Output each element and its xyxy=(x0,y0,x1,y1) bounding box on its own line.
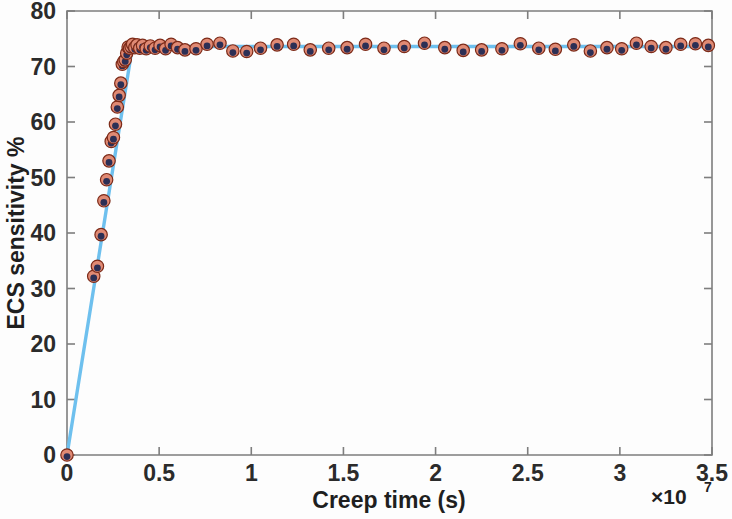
y-tick-label: 70 xyxy=(30,54,56,80)
data-point xyxy=(398,40,410,52)
data-point xyxy=(271,39,283,51)
data-point xyxy=(514,38,526,50)
x-axis-exponent-multiplier: ×10 xyxy=(651,485,687,508)
y-tick-label: 0 xyxy=(43,442,56,468)
x-tick-label: 3 xyxy=(613,460,626,486)
x-tick-label: 1 xyxy=(245,460,258,486)
y-tick-labels: 01020304050607080 xyxy=(30,0,56,468)
data-point xyxy=(227,45,239,57)
data-point xyxy=(304,44,316,56)
data-point xyxy=(214,37,226,49)
data-point xyxy=(109,118,121,130)
data-point xyxy=(254,42,266,54)
y-tick-label: 60 xyxy=(30,109,56,135)
data-point xyxy=(240,45,252,57)
ecs-sensitivity-chart: 00.511.522.533.5 01020304050607080 Creep… xyxy=(0,0,732,519)
data-point xyxy=(549,43,561,55)
data-point xyxy=(439,41,451,53)
data-point xyxy=(496,43,508,55)
y-tick-label: 30 xyxy=(30,276,56,302)
data-point xyxy=(115,77,127,89)
y-tick-label: 10 xyxy=(30,387,56,413)
data-point xyxy=(341,41,353,53)
x-tick-label: 2.5 xyxy=(512,460,544,486)
data-point xyxy=(287,38,299,50)
data-point xyxy=(201,38,213,50)
y-tick-label: 50 xyxy=(30,165,56,191)
data-point xyxy=(645,40,657,52)
x-tick-label: 2 xyxy=(429,460,442,486)
data-point xyxy=(91,260,103,272)
data-point xyxy=(98,195,110,207)
x-tick-label: 1.5 xyxy=(327,460,359,486)
data-point xyxy=(95,228,107,240)
data-point xyxy=(616,43,628,55)
data-point xyxy=(660,41,672,53)
data-point xyxy=(359,38,371,50)
data-point xyxy=(475,44,487,56)
data-point xyxy=(103,155,115,167)
y-axis-title: ECS sensitivity % xyxy=(3,136,29,329)
data-point xyxy=(533,42,545,54)
data-point xyxy=(457,44,469,56)
data-point xyxy=(418,37,430,49)
data-point xyxy=(601,41,613,53)
data-point xyxy=(113,89,125,101)
x-axis-exponent-power: 7 xyxy=(704,479,712,495)
data-point xyxy=(111,101,123,113)
data-point xyxy=(568,39,580,51)
y-tick-label: 80 xyxy=(30,0,56,24)
x-tick-label: 0.5 xyxy=(143,460,175,486)
data-point xyxy=(630,37,642,49)
data-point xyxy=(689,38,701,50)
y-tick-label: 40 xyxy=(30,220,56,246)
data-point xyxy=(322,42,334,54)
x-tick-label: 0 xyxy=(61,460,74,486)
data-point xyxy=(179,44,191,56)
data-point xyxy=(584,45,596,57)
chart-background xyxy=(0,0,732,519)
x-tick-label: 3.5 xyxy=(696,460,728,486)
data-point xyxy=(702,39,714,51)
y-tick-label: 20 xyxy=(30,331,56,357)
x-axis-title: Creep time (s) xyxy=(312,487,465,513)
data-point xyxy=(107,131,119,143)
figure-container: 00.511.522.533.5 01020304050607080 Creep… xyxy=(0,0,732,519)
data-point xyxy=(378,42,390,54)
data-point xyxy=(100,174,112,186)
data-point xyxy=(674,38,686,50)
